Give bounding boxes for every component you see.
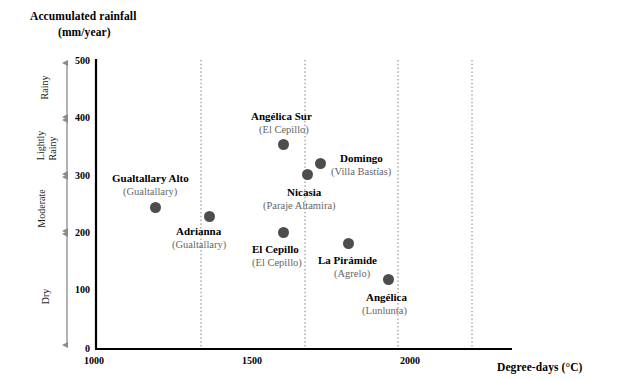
data-point-label: Gualtallary Alto — [112, 172, 189, 184]
data-point-marker[interactable] — [278, 227, 289, 238]
data-point-sublabel: (Villa Bastías) — [331, 166, 391, 177]
data-point-label: Adrianna — [176, 225, 221, 237]
data-point-label: Domingo — [340, 152, 383, 164]
x-tick-2000: 2000 — [400, 355, 420, 366]
y-category-moderate: Moderate — [36, 189, 47, 227]
x-axis-title: Degree-days (°C) — [497, 361, 583, 373]
data-point-marker[interactable] — [150, 202, 161, 213]
x-tick-1500: 1500 — [242, 355, 262, 366]
data-point-label: Angélica Sur — [251, 110, 312, 122]
chart-title-line1: Accumulated rainfall — [30, 10, 136, 22]
y-tick-100: 100 — [75, 284, 90, 295]
y-category-lightly-rainy: Rainy — [47, 137, 58, 161]
data-point-sublabel: (El Cepillo) — [252, 257, 302, 268]
data-point-sublabel: (Gualtallary) — [172, 239, 226, 250]
y-tick-200: 200 — [75, 227, 90, 238]
data-point-label: Nicasia — [287, 186, 321, 198]
y-tick-0: 0 — [85, 343, 90, 354]
chart-title-units: (mm/year) — [58, 26, 111, 38]
y-category-rainy: Rainy — [39, 76, 50, 100]
data-point-marker[interactable] — [383, 274, 394, 285]
data-point-marker[interactable] — [278, 139, 289, 150]
y-category-lightly: Lightly — [35, 131, 46, 160]
y-tick-500: 500 — [75, 55, 90, 66]
data-point-sublabel: (Agrelo) — [334, 268, 370, 279]
data-point-marker[interactable] — [302, 169, 313, 180]
data-point-marker[interactable] — [315, 158, 326, 169]
data-point-label: La Pirámide — [318, 254, 377, 266]
y-tick-400: 400 — [75, 112, 90, 123]
data-point-label: Angélica — [366, 291, 407, 303]
data-point-label: El Cepillo — [252, 243, 299, 255]
data-point-marker[interactable] — [204, 211, 215, 222]
data-point-sublabel: (Lunlunta) — [362, 305, 407, 316]
x-tick-1000: 1000 — [84, 355, 104, 366]
data-point-sublabel: (El Cepillo) — [259, 124, 309, 135]
data-point-sublabel: (Paraje Altamira) — [263, 200, 336, 211]
data-point-sublabel: (Gualtallary) — [123, 186, 177, 197]
y-tick-300: 300 — [75, 170, 90, 181]
y-category-dry: Dry — [40, 289, 51, 305]
data-point-marker[interactable] — [343, 238, 354, 249]
